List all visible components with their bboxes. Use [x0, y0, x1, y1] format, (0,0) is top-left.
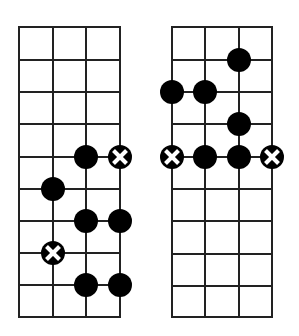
- note-dot-icon: [108, 209, 132, 233]
- right-fretboard: [160, 27, 284, 317]
- note-dot-icon: [193, 145, 217, 169]
- note-dot-icon: [160, 80, 184, 104]
- note-dot-icon: [227, 145, 251, 169]
- note-dot-icon: [108, 273, 132, 297]
- note-dot-icon: [74, 273, 98, 297]
- note-dot-icon: [74, 209, 98, 233]
- note-dot-icon: [41, 177, 65, 201]
- root-marker-icon: [260, 145, 284, 169]
- root-marker-icon: [108, 145, 132, 169]
- left-fretboard: [18, 27, 132, 317]
- root-marker-icon: [41, 241, 65, 265]
- note-dot-icon: [74, 145, 98, 169]
- fretboard-diagrams: [0, 0, 299, 336]
- note-dot-icon: [227, 112, 251, 136]
- root-marker-icon: [160, 145, 184, 169]
- note-dot-icon: [193, 80, 217, 104]
- note-dot-icon: [227, 48, 251, 72]
